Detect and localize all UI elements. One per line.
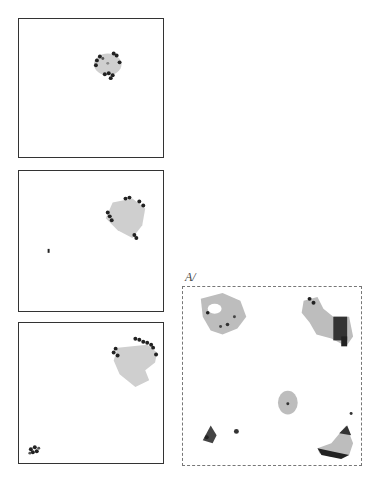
cluster-bottom-left [203, 425, 217, 443]
cluster-1 [94, 52, 122, 81]
cluster-plot-1 [19, 19, 163, 157]
cluster-top-left [201, 293, 246, 335]
cluster-bottom-small [234, 429, 239, 434]
cluster-bottom-right [317, 412, 353, 459]
panel-4-label: A/ [185, 270, 196, 285]
cluster-plot-4 [183, 287, 361, 465]
cluster-center [278, 391, 298, 415]
cluster-small [48, 249, 50, 253]
cluster-main [112, 337, 158, 387]
simulation-panel-2 [18, 170, 164, 312]
cluster-corner [28, 445, 40, 454]
simulation-panel-3 [18, 322, 164, 464]
simulation-panel-4 [182, 286, 362, 466]
cluster-plot-2 [19, 171, 163, 311]
cluster-top-right [302, 297, 353, 346]
cluster-plot-3 [19, 323, 163, 463]
simulation-panel-1 [18, 18, 164, 158]
cluster-main [106, 196, 145, 240]
